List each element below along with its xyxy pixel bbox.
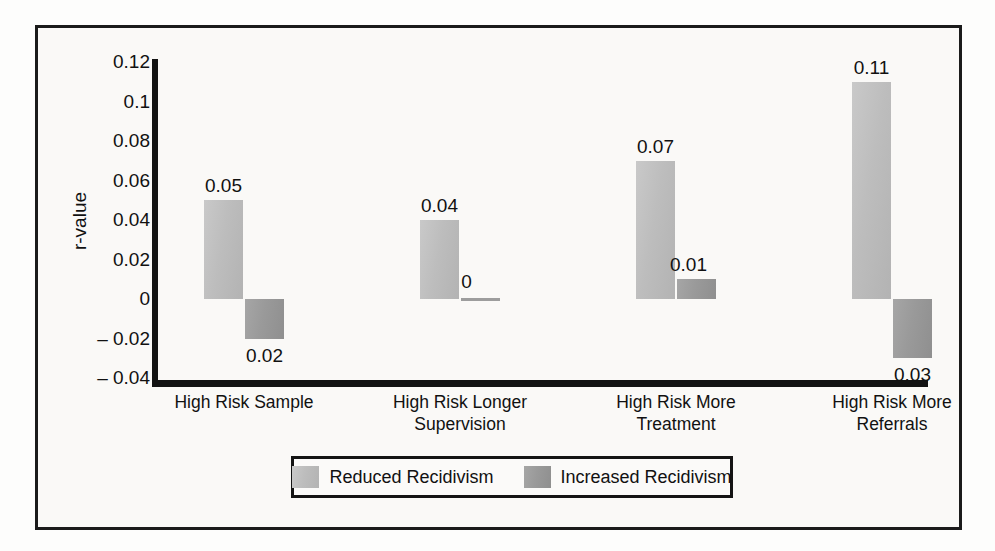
bar-value-label: 0.05 [184, 175, 263, 197]
y-axis-tick: 0.1 [72, 92, 150, 111]
bar-value-label: 0.11 [832, 57, 911, 79]
y-axis-tick: 0.12 [72, 52, 150, 71]
legend-item: Increased Recidivism [524, 466, 732, 488]
y-axis-line [152, 59, 158, 386]
legend-label: Reduced Recidivism [329, 467, 493, 488]
bar [893, 299, 932, 358]
legend: Reduced RecidivismIncreased Recidivism [291, 456, 733, 498]
plot-area: 0.120.10.080.060.040.020– 0.02– 0.04 r-v… [38, 28, 965, 533]
bar [245, 299, 284, 339]
category-label-line: Treatment [571, 414, 781, 436]
bar-value-label: 0.07 [616, 136, 695, 158]
y-axis-label: r-value [69, 161, 91, 281]
bar-value-label: 0.04 [400, 195, 479, 217]
figure: 0.120.10.080.060.040.020– 0.02– 0.04 r-v… [0, 0, 995, 551]
legend-label: Increased Recidivism [561, 467, 732, 488]
chart-frame: 0.120.10.080.060.040.020– 0.02– 0.04 r-v… [35, 25, 962, 530]
legend-swatch-icon [292, 466, 319, 488]
bar-value-label: 0.02 [225, 345, 304, 367]
category-label-line: Referrals [787, 414, 995, 436]
bar [461, 298, 500, 301]
bar-value-label: 0 [427, 271, 506, 293]
legend-swatch-icon [524, 466, 551, 488]
bar [852, 82, 891, 299]
bar [204, 200, 243, 299]
bar-value-label: 0.01 [649, 254, 728, 276]
bar [636, 161, 675, 299]
x-axis-line [152, 380, 928, 387]
category-label-line: High Risk Longer [355, 392, 565, 414]
bar-value-label: 0.03 [873, 364, 952, 386]
category-label-line: High Risk More [571, 392, 781, 414]
y-axis-tick: – 0.02 [72, 329, 150, 348]
category-label: High Risk MoreTreatment [571, 392, 781, 436]
category-label: High Risk Sample [139, 392, 349, 414]
y-axis-tick: – 0.04 [72, 368, 150, 387]
category-label: High Risk LongerSupervision [355, 392, 565, 436]
category-label-line: Supervision [355, 414, 565, 436]
legend-item: Reduced Recidivism [292, 466, 493, 488]
category-label-line: High Risk Sample [139, 392, 349, 414]
bar [677, 279, 716, 299]
y-axis-tick: 0.08 [72, 131, 150, 150]
y-axis-tick: 0 [72, 289, 150, 308]
category-label: High Risk MoreReferrals [787, 392, 995, 436]
category-label-line: High Risk More [787, 392, 995, 414]
